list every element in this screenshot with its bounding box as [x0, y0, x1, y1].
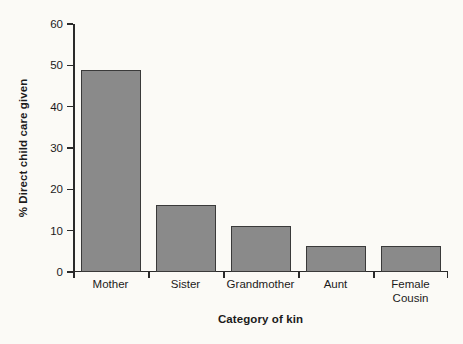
x-category-label: Aunt	[298, 277, 373, 291]
x-axis-title: Category of kin	[73, 313, 448, 325]
y-tick-label: 50	[50, 59, 63, 71]
x-category-label-line: Sister	[148, 277, 223, 291]
bar-sister	[156, 205, 216, 272]
y-tick-label: 60	[50, 18, 63, 30]
x-category-label-line: Cousin	[373, 291, 448, 305]
x-category-label-line: Aunt	[298, 277, 373, 291]
bar-chart: % Direct child care given 0102030405060 …	[0, 0, 463, 344]
x-category-label-line: Female	[373, 277, 448, 291]
y-tick-label: 10	[50, 225, 63, 237]
bar-grandmother	[231, 226, 291, 272]
bar-series	[73, 24, 448, 272]
x-category-label: Mother	[73, 277, 148, 291]
x-category-label-line: Mother	[73, 277, 148, 291]
bar-aunt	[306, 246, 366, 272]
x-category-label: Grandmother	[223, 277, 298, 291]
y-tick-label: 30	[50, 142, 63, 154]
bar-female-cousin	[381, 246, 441, 272]
y-tick-label: 0	[57, 266, 63, 278]
bar-mother	[81, 70, 141, 272]
y-axis-title: % Direct child care given	[14, 18, 32, 278]
plot-area: 0102030405060	[73, 24, 448, 272]
y-tick-label: 20	[50, 183, 63, 195]
x-category-label: FemaleCousin	[373, 277, 448, 305]
y-tick-label: 40	[50, 101, 63, 113]
x-category-label-line: Grandmother	[223, 277, 298, 291]
x-category-label: Sister	[148, 277, 223, 291]
x-axis-category-labels: MotherSisterGrandmotherAuntFemaleCousin	[73, 277, 448, 317]
